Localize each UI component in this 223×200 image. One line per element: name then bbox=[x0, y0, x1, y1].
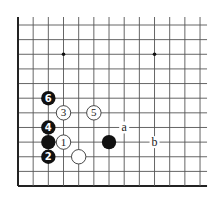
star-point bbox=[62, 52, 66, 56]
white-stone-3: 3 bbox=[56, 106, 70, 120]
white-stone-1: 1 bbox=[56, 135, 70, 149]
star-point bbox=[153, 52, 157, 56]
black-stone bbox=[102, 135, 116, 149]
black-stone-6: 6 bbox=[41, 91, 55, 105]
marker-label: a bbox=[122, 120, 128, 134]
move-number: 1 bbox=[61, 136, 67, 148]
black-stone-4: 4 bbox=[41, 120, 55, 134]
move-number: 3 bbox=[61, 106, 67, 118]
black-stone-2: 2 bbox=[41, 150, 55, 164]
move-number: 2 bbox=[45, 151, 52, 162]
move-number: 5 bbox=[91, 106, 97, 118]
white-stone bbox=[71, 150, 85, 164]
marker-b: b bbox=[150, 135, 160, 149]
marker-a: a bbox=[119, 120, 129, 134]
black-stone bbox=[41, 135, 55, 149]
white-stone-5: 5 bbox=[87, 106, 101, 120]
move-number: 4 bbox=[45, 122, 52, 133]
move-number: 6 bbox=[45, 93, 52, 104]
marker-label: b bbox=[152, 135, 158, 149]
go-board: ab 635412 bbox=[0, 0, 223, 200]
